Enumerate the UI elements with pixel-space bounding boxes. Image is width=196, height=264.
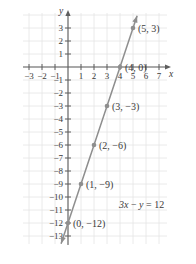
data-point [92, 143, 97, 148]
y-tick-label: −11 [49, 205, 63, 215]
x-axis-label: x [168, 69, 174, 79]
y-tick-label: −3 [53, 101, 63, 111]
data-point [118, 65, 123, 70]
x-tick-label: 1 [79, 71, 84, 81]
y-tick-label: −2 [53, 88, 63, 98]
y-tick-label: −7 [53, 153, 63, 163]
coordinate-plane-svg: −3−2−11234567321−1−2−3−4−5−6−7−8−9−10−11… [0, 0, 196, 264]
y-tick-label: 1 [59, 49, 64, 59]
y-tick-label: 2 [59, 36, 64, 46]
data-point-label: (0, −12) [73, 218, 105, 230]
equation-coefficient-x: 3x [118, 199, 129, 210]
x-tick-label: 5 [131, 71, 136, 81]
equation-operator: − [128, 199, 139, 210]
x-tick-label: 7 [157, 71, 162, 81]
data-point [131, 26, 136, 31]
y-tick-label: −8 [53, 166, 63, 176]
data-point [105, 104, 110, 109]
x-tick-label: 2 [92, 71, 97, 81]
y-tick-label: −6 [53, 140, 63, 150]
data-point-label: (1, −9) [86, 179, 113, 191]
data-point-label: (2, −6) [99, 140, 126, 152]
y-axis-label: y [58, 6, 64, 16]
equation-equals-rhs: = 12 [144, 199, 165, 210]
y-tick-label: −1 [53, 75, 63, 85]
y-tick-label: −12 [49, 218, 63, 228]
x-tick-label: −3 [24, 71, 34, 81]
data-point-label: (5, 3) [138, 23, 160, 35]
x-tick-label: 3 [105, 71, 110, 81]
y-tick-label: −5 [53, 127, 63, 137]
y-tick-label: −10 [49, 192, 64, 202]
y-tick-label: −4 [53, 114, 63, 124]
equation-annotation: 3x − y = 12 [118, 199, 164, 210]
x-tick-label: −2 [37, 71, 47, 81]
x-tick-label: 6 [144, 71, 149, 81]
coordinate-graph-figure: −3−2−11234567321−1−2−3−4−5−6−7−8−9−10−11… [0, 0, 196, 264]
data-point-label: (4, 0) [125, 62, 147, 74]
data-point [66, 221, 71, 226]
data-point-label: (3, −3) [112, 101, 139, 113]
data-point [79, 182, 84, 187]
y-tick-label: 3 [59, 23, 64, 33]
y-tick-label: −9 [53, 179, 63, 189]
